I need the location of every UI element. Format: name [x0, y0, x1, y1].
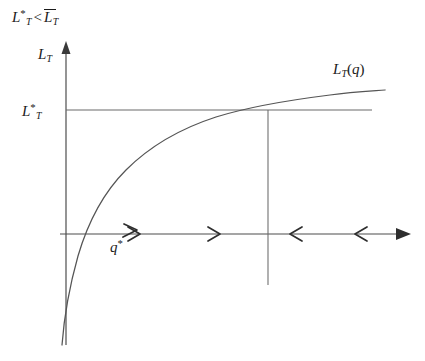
constraint-relation: <: [31, 9, 44, 25]
curve-label-close-paren: ): [360, 61, 365, 77]
y-axis-label: LT: [38, 47, 52, 64]
reference-lines-group: [66, 110, 372, 285]
constraint-rhs-overbar: LT: [44, 10, 58, 27]
q-star-pointer-arrow-icon: [123, 224, 137, 237]
x-axis-arrowhead-icon: [396, 228, 411, 240]
axes-group: [60, 41, 411, 345]
l-star-tick-label: L*T: [22, 102, 41, 121]
q-star-star: *: [118, 237, 123, 249]
phase-diagram-figure: L*T<LT LT L*T LT(q) q*: [0, 0, 425, 361]
q-star-var: q: [110, 239, 118, 255]
lt-q-curve: [62, 90, 385, 345]
constraint-rhs-sub: T: [52, 16, 58, 27]
constraint-label: L*T<LT: [12, 8, 58, 27]
y-axis-label-sub: T: [46, 53, 52, 64]
curve-label-arg: q: [352, 61, 360, 77]
q-star-label: q*: [110, 238, 123, 255]
diagram-canvas: [0, 0, 425, 361]
l-star-tick-sub: T: [36, 110, 42, 121]
constraint-lhs-star: *: [20, 7, 25, 19]
l-star-tick-star: *: [30, 101, 35, 113]
y-axis-arrowhead-icon: [62, 41, 71, 54]
curve-label: LT(q): [333, 62, 365, 79]
